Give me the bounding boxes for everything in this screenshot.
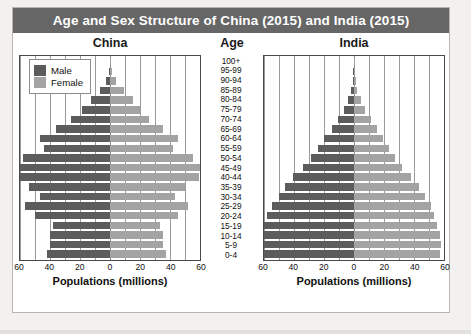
pyramid-row bbox=[264, 105, 444, 115]
x-axis-title-china: Populations (millions) bbox=[19, 275, 201, 287]
bar-female bbox=[110, 250, 166, 258]
age-axis-labels: 0-45-910-1415-1920-2425-2930-3435-3940-4… bbox=[201, 55, 261, 261]
bar-male bbox=[82, 106, 111, 114]
bar-female bbox=[354, 116, 371, 124]
bar-female bbox=[110, 164, 201, 172]
age-label: 40-44 bbox=[201, 173, 261, 183]
x-tick-label: 60 bbox=[14, 262, 24, 272]
bar-male bbox=[40, 193, 111, 201]
pyramid-row bbox=[264, 95, 444, 105]
pyramid-row bbox=[264, 172, 444, 182]
bar-female bbox=[354, 125, 377, 133]
bar-female bbox=[110, 135, 178, 143]
x-tick-label: 0 bbox=[108, 262, 113, 272]
bar-female bbox=[354, 96, 361, 104]
age-label: 25-29 bbox=[201, 202, 261, 212]
x-tick-label: 60 bbox=[258, 262, 268, 272]
legend-swatch-female-icon bbox=[34, 77, 46, 88]
bar-rows-india bbox=[264, 56, 444, 260]
bar-female bbox=[110, 77, 116, 85]
x-tick-label: 0 bbox=[352, 262, 357, 272]
bar-female bbox=[354, 164, 402, 172]
legend-label-male: Male bbox=[51, 65, 72, 76]
bar-female bbox=[354, 241, 441, 249]
bar-male bbox=[19, 164, 110, 172]
bar-male bbox=[91, 96, 111, 104]
bar-female bbox=[354, 250, 440, 258]
bar-male bbox=[293, 173, 355, 181]
age-label: 55-59 bbox=[201, 143, 261, 153]
age-label: 95-99 bbox=[201, 66, 261, 76]
bar-female bbox=[354, 193, 425, 201]
bar-female bbox=[110, 106, 140, 114]
pyramid-row bbox=[264, 201, 444, 211]
figure-title: Age and Sex Structure of China (2015) an… bbox=[13, 8, 449, 33]
bar-female bbox=[110, 154, 193, 162]
pyramid-row bbox=[264, 163, 444, 173]
age-label: 85-89 bbox=[201, 85, 261, 95]
pyramid-row bbox=[20, 163, 200, 173]
pyramid-row bbox=[264, 211, 444, 221]
bar-female bbox=[110, 173, 199, 181]
pyramid-row bbox=[264, 249, 444, 259]
bar-female bbox=[354, 106, 365, 114]
page-margin-text bbox=[453, 292, 469, 332]
figure-container: Age and Sex Structure of China (2015) an… bbox=[12, 7, 450, 313]
bar-male bbox=[263, 222, 354, 230]
bar-female bbox=[110, 116, 149, 124]
bar-female bbox=[354, 173, 411, 181]
legend-item-female: Female bbox=[34, 77, 83, 88]
bar-male bbox=[272, 202, 355, 210]
pyramid-row bbox=[20, 124, 200, 134]
bar-male bbox=[267, 212, 354, 220]
bar-male bbox=[318, 145, 354, 153]
pyramid-india bbox=[263, 55, 445, 261]
bar-male bbox=[263, 231, 354, 239]
x-tick-label: 20 bbox=[319, 262, 329, 272]
legend-item-male: Male bbox=[34, 65, 83, 76]
x-tick-label: 60 bbox=[196, 262, 206, 272]
bar-male bbox=[53, 222, 110, 230]
pyramid-row bbox=[264, 57, 444, 67]
gridline bbox=[444, 56, 445, 260]
bar-male bbox=[71, 116, 110, 124]
bar-female bbox=[110, 68, 112, 76]
bar-male bbox=[344, 106, 355, 114]
figure-body: China Age India Male Female 0-45-910-141… bbox=[13, 33, 449, 312]
pyramid-row bbox=[20, 153, 200, 163]
column-header-india: India bbox=[263, 36, 445, 50]
x-tick-label: 40 bbox=[410, 262, 420, 272]
bar-female bbox=[110, 58, 111, 66]
x-axis-ticks-india: 6040200204060 bbox=[263, 262, 445, 275]
age-label: 35-39 bbox=[201, 182, 261, 192]
age-label: 15-19 bbox=[201, 221, 261, 231]
pyramid-row bbox=[20, 95, 200, 105]
x-tick-label: 40 bbox=[45, 262, 55, 272]
bar-female bbox=[110, 193, 175, 201]
legend-label-female: Female bbox=[51, 77, 83, 88]
x-tick-label: 20 bbox=[136, 262, 146, 272]
age-label: 70-74 bbox=[201, 114, 261, 124]
bar-female bbox=[354, 183, 419, 191]
bar-male bbox=[303, 164, 354, 172]
pyramid-row bbox=[264, 153, 444, 163]
pyramid-row bbox=[20, 172, 200, 182]
age-label: 60-64 bbox=[201, 134, 261, 144]
legend: Male Female bbox=[29, 59, 91, 94]
age-label: 75-79 bbox=[201, 105, 261, 115]
age-label: 30-34 bbox=[201, 192, 261, 202]
bar-male bbox=[263, 241, 354, 249]
x-tick-label: 40 bbox=[289, 262, 299, 272]
pyramid-china: Male Female bbox=[19, 55, 201, 261]
pyramid-row bbox=[264, 76, 444, 86]
bar-male bbox=[279, 193, 354, 201]
column-header-china: China bbox=[19, 36, 201, 50]
bar-female bbox=[110, 125, 163, 133]
pyramid-row bbox=[264, 124, 444, 134]
pyramid-row bbox=[20, 201, 200, 211]
bar-male bbox=[47, 250, 110, 258]
bar-male bbox=[25, 202, 111, 210]
pyramid-row bbox=[20, 192, 200, 202]
bar-male bbox=[100, 87, 111, 95]
bar-male bbox=[23, 154, 110, 162]
